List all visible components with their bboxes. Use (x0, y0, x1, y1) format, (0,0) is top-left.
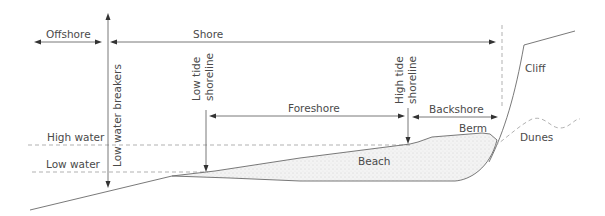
label-offshore: Offshore (46, 28, 91, 40)
label-beach: Beach (358, 155, 391, 167)
label-high-tide-line1: High tide (393, 56, 405, 104)
shore-arrow-left-head (110, 40, 117, 45)
label-low-tide-line2: shoreline (203, 53, 215, 101)
label-cliff: Cliff (525, 62, 546, 74)
beach-profile-diagram: Offshore Shore Low water breakers Low ti… (0, 0, 605, 216)
foreshore-arrow-left-head (209, 114, 216, 119)
breakers-arrow-down-head (106, 181, 111, 188)
label-low-tide-line1: Low tide (190, 57, 202, 101)
breakers-arrow-up-head (106, 13, 111, 20)
shore-arrow-right-head (489, 40, 496, 45)
backshore-arrow-right-head (491, 115, 498, 120)
label-backshore: Backshore (429, 103, 484, 115)
label-shore: Shore (193, 28, 223, 40)
label-foreshore: Foreshore (288, 102, 340, 114)
beach-sand-fill (172, 133, 497, 181)
label-low-water-breakers: Low water breakers (111, 64, 123, 167)
offshore-arrow-left-head (34, 40, 41, 45)
high-tide-arrow-head (406, 137, 411, 144)
label-low-water: Low water (46, 158, 101, 170)
low-tide-arrow-head (204, 165, 209, 172)
label-high-tide-line2: shoreline (406, 56, 418, 104)
label-berm: Berm (459, 122, 487, 134)
offshore-arrow-right-head (95, 40, 102, 45)
label-high-water: High water (47, 131, 105, 143)
backshore-arrow-left-head (412, 115, 419, 120)
foreshore-arrow-right-head (398, 114, 405, 119)
label-dunes: Dunes (520, 131, 553, 143)
